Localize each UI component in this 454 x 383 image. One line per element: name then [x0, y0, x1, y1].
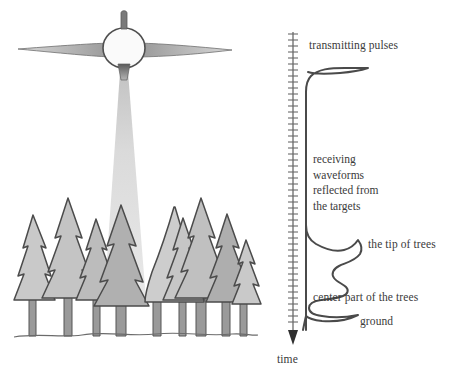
- label-time-axis: time: [277, 352, 298, 366]
- label-transmitting-pulses: transmitting pulses: [309, 38, 398, 52]
- label-tip-of-trees: the tip of trees: [368, 237, 436, 251]
- lidar-waveform-figure: transmitting pulses receiving waveforms …: [0, 0, 454, 383]
- receiving-line-4: the targets: [313, 199, 378, 215]
- receiving-line-3: reflected from: [313, 183, 378, 199]
- label-ground: ground: [360, 314, 393, 328]
- label-center-part-of-trees: center part of the trees: [313, 290, 418, 304]
- time-axis: [288, 32, 298, 345]
- receiving-line-1: receiving: [313, 152, 378, 168]
- receiving-line-2: waveforms: [313, 168, 378, 184]
- label-receiving-waveforms-block: receiving waveforms reflected from the t…: [313, 152, 378, 214]
